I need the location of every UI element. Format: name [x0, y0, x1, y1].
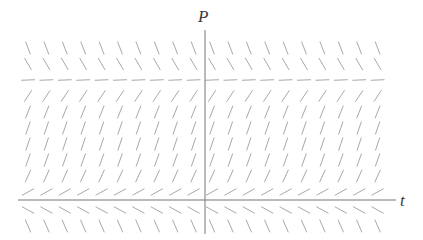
slope-segment [335, 207, 346, 213]
slope-segment [118, 42, 123, 54]
slope-segment [247, 138, 251, 150]
slope-segment [25, 58, 32, 69]
slope-segment [375, 170, 380, 182]
slope-segment [118, 106, 123, 118]
slope-segment [116, 91, 123, 102]
slope-segment [206, 189, 217, 195]
slope-segment [302, 106, 307, 118]
slope-segment [136, 42, 141, 54]
slope-segment [99, 122, 103, 134]
slope-segment [353, 80, 366, 81]
slope-segment [136, 106, 141, 118]
slope-segment [282, 58, 289, 69]
slope-segment [132, 80, 145, 81]
slope-segment [81, 170, 86, 182]
slope-segment [78, 189, 89, 195]
slope-segment [284, 138, 288, 150]
slope-segment [357, 154, 361, 166]
slope-segment [227, 58, 234, 69]
slope-segment [246, 170, 251, 182]
slope-segment [246, 220, 251, 232]
slope-segment [246, 106, 251, 118]
slope-segment [302, 154, 306, 166]
slope-segment [25, 220, 30, 232]
slope-segment [136, 220, 141, 232]
slope-segment [372, 207, 383, 213]
slope-segment [264, 91, 271, 102]
slope-segment [247, 122, 251, 134]
slope-segment [210, 138, 214, 150]
slope-segment [99, 220, 104, 232]
slope-segment [357, 42, 362, 54]
slope-segment [170, 189, 181, 195]
slope-segment [319, 91, 326, 102]
slope-segment [62, 42, 67, 54]
slope-segment [283, 170, 288, 182]
slope-segment [151, 207, 162, 213]
slope-segment [357, 138, 361, 150]
slope-segment [172, 91, 179, 102]
slope-segment [317, 189, 328, 195]
slope-segment [191, 220, 196, 232]
slope-segment [114, 207, 125, 213]
slope-segment [335, 189, 346, 195]
slope-segment [169, 80, 182, 81]
slope-segment [375, 220, 380, 232]
slope-segment [81, 138, 85, 150]
slope-segment [320, 42, 325, 54]
slope-segment [58, 80, 71, 81]
slope-segment [320, 154, 324, 166]
slope-segment [99, 154, 103, 166]
slope-segment [191, 106, 196, 118]
slope-segment [210, 42, 215, 54]
slope-segment [261, 80, 274, 81]
slope-segment [44, 122, 48, 134]
slope-segment [44, 154, 48, 166]
slope-segment [63, 122, 67, 134]
slope-segment [301, 220, 306, 232]
slope-segment [44, 220, 49, 232]
slope-segment [209, 58, 216, 69]
slope-segment [301, 170, 306, 182]
slope-segment [77, 80, 90, 81]
slope-segment [265, 170, 270, 182]
slope-segment [41, 207, 52, 213]
slope-segment [118, 138, 122, 150]
slope-segment [206, 80, 219, 81]
slope-segment [224, 80, 237, 81]
p-axis-label: P [198, 8, 208, 25]
slope-segment [339, 154, 343, 166]
slope-segment [302, 122, 306, 134]
slope-segment [374, 91, 381, 102]
slope-segment [188, 189, 199, 195]
slope-segment [22, 80, 35, 81]
slope-segment [154, 106, 159, 118]
slope-segment [209, 220, 214, 232]
slope-segment [228, 138, 232, 150]
slope-segment [173, 154, 177, 166]
slope-segment [59, 207, 70, 213]
slope-segment [98, 91, 105, 102]
slope-segment [206, 207, 217, 213]
slope-segment [357, 106, 362, 118]
slope-segment [136, 170, 141, 182]
slope-segment [98, 58, 105, 69]
slope-segment [356, 91, 363, 102]
slope-segment [320, 170, 325, 182]
slope-segment [283, 122, 287, 134]
slope-segment [155, 138, 159, 150]
slope-segment [155, 122, 159, 134]
slope-segment [95, 80, 108, 81]
slope-segment [99, 42, 104, 54]
slope-segment [59, 189, 70, 195]
slope-segment [265, 220, 270, 232]
slope-segment [135, 91, 142, 102]
slope-segment [302, 138, 306, 150]
slope-segment [245, 91, 252, 102]
slope-segment [26, 42, 31, 54]
slope-segment [81, 106, 86, 118]
slope-segment [338, 42, 343, 54]
slope-segment [210, 106, 215, 118]
slope-segment [371, 80, 384, 81]
slope-segment [81, 154, 85, 166]
